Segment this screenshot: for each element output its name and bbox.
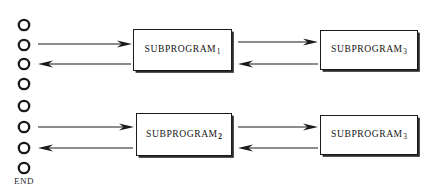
subprogram-1-label: SUBPROGRAM1 — [145, 44, 221, 55]
subprogram-2-subscript: 2 — [218, 132, 222, 141]
subprogram-3-top: SUBPROGRAM3 — [320, 30, 418, 70]
subprogram-3-top-label: SUBPROGRAM3 — [331, 44, 407, 55]
arrow-sub3-to-sub1-top — [238, 61, 318, 68]
circle-6 — [19, 122, 29, 132]
arrow-main-to-sub2 — [38, 124, 134, 131]
arrow-sub1-to-sub3-top — [238, 39, 318, 46]
subprogram-3-bottom-label: SUBPROGRAM3 — [331, 129, 407, 140]
arrow-sub1-to-main — [38, 61, 131, 68]
circle-8 — [19, 163, 29, 173]
subprogram-3-bottom-subscript: 3 — [403, 132, 407, 141]
arrow-sub2-to-sub3-bottom — [238, 124, 318, 131]
circle-5 — [19, 101, 29, 111]
subprogram-3-top-subscript: 3 — [403, 47, 407, 56]
circle-7 — [19, 143, 29, 153]
circle-1 — [19, 20, 29, 30]
subprogram-1: SUBPROGRAM1 — [133, 29, 232, 71]
subprogram-3-bottom: SUBPROGRAM3 — [320, 115, 418, 155]
flow-circle-group — [19, 20, 29, 173]
circle-3 — [19, 59, 29, 69]
arrow-sub2-to-main — [38, 145, 133, 152]
arrow-sub3-to-sub2-bottom — [238, 145, 318, 152]
subprogram-2-label: SUBPROGRAM2 — [146, 129, 222, 140]
circle-2 — [19, 40, 29, 50]
subprogram-call-diagram: SUBPROGRAM1SUBPROGRAM3SUBPROGRAM2SUBPROG… — [0, 0, 431, 195]
subprogram-1-subscript: 1 — [216, 47, 220, 56]
end-label: END — [14, 176, 34, 186]
subprogram-2: SUBPROGRAM2 — [136, 113, 232, 156]
circle-4 — [19, 79, 29, 89]
arrow-main-to-sub1 — [38, 41, 132, 48]
